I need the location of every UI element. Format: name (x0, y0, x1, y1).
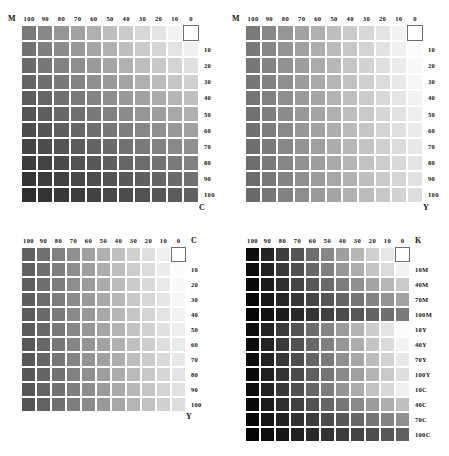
color-patch (320, 397, 335, 412)
patch-grid (245, 247, 410, 442)
patch-row (245, 171, 423, 187)
patch-row (21, 25, 199, 41)
color-patch (66, 382, 81, 397)
color-patch (245, 122, 261, 138)
color-patch (141, 367, 156, 382)
column-axis-tag: M (8, 14, 21, 23)
column-label: 80 (275, 236, 290, 245)
color-patch (37, 90, 53, 106)
color-patch (380, 337, 395, 352)
column-labels: 1009080706050403020100 (245, 236, 410, 245)
color-patch (167, 138, 183, 154)
column-label: 20 (375, 14, 391, 23)
color-patch (260, 382, 275, 397)
color-patch (141, 322, 156, 337)
patch-row (245, 187, 423, 203)
color-patch (21, 74, 37, 90)
color-patch (21, 397, 36, 412)
footer-gutter (232, 203, 418, 213)
color-patch (290, 262, 305, 277)
color-patch (261, 74, 277, 90)
color-patch (86, 122, 102, 138)
color-patch (275, 352, 290, 367)
column-label: 100 (245, 14, 261, 23)
color-patch (395, 412, 410, 427)
color-patch (395, 292, 410, 307)
row-label: 10 (204, 41, 225, 57)
color-patch (245, 367, 260, 382)
column-label: 0 (407, 14, 423, 23)
color-patch (36, 262, 51, 277)
row-label: 10M (415, 262, 436, 277)
color-patch (21, 247, 36, 262)
color-patch (245, 155, 261, 171)
color-patch (111, 382, 126, 397)
color-patch (365, 367, 380, 382)
color-patch (310, 171, 326, 187)
color-patch (391, 25, 407, 41)
patch-row (21, 337, 186, 352)
color-patch (141, 397, 156, 412)
color-patch (310, 74, 326, 90)
patch-row (21, 397, 186, 412)
color-patch (407, 138, 423, 154)
color-patch (261, 90, 277, 106)
color-patch (86, 41, 102, 57)
patch-row (21, 187, 199, 203)
color-patch (326, 187, 342, 203)
color-patch (96, 277, 111, 292)
color-patch (294, 25, 310, 41)
left-gutter (232, 247, 245, 442)
color-patch (277, 171, 293, 187)
color-patch (171, 277, 186, 292)
color-patch (275, 367, 290, 382)
color-patch (86, 57, 102, 73)
color-patch (141, 352, 156, 367)
color-patch (342, 57, 358, 73)
color-patch (81, 352, 96, 367)
patch-row (245, 57, 423, 73)
color-patch (305, 247, 320, 262)
color-patch (342, 138, 358, 154)
row-label: 90 (204, 171, 225, 187)
color-patch (183, 171, 199, 187)
color-patch (380, 247, 395, 262)
patch-row (21, 307, 186, 322)
chart-body: 102030405060708090100 (232, 25, 449, 203)
color-patch (81, 262, 96, 277)
color-patch (36, 382, 51, 397)
color-patch (111, 277, 126, 292)
patch-row (21, 171, 199, 187)
color-patch (141, 307, 156, 322)
color-patch (290, 277, 305, 292)
color-patch (21, 307, 36, 322)
row-label: 40 (191, 307, 212, 322)
color-patch (96, 247, 111, 262)
color-patch (53, 74, 69, 90)
color-patch (395, 322, 410, 337)
row-label: 50 (204, 106, 225, 122)
row-label: 50 (191, 322, 212, 337)
row-label: 90 (428, 171, 449, 187)
color-patch (342, 74, 358, 90)
color-patch (134, 90, 150, 106)
color-patch (86, 138, 102, 154)
color-patch (275, 322, 290, 337)
color-patch (320, 262, 335, 277)
color-patch (326, 171, 342, 187)
color-patch (335, 412, 350, 427)
color-patch (320, 352, 335, 367)
color-patch (290, 337, 305, 352)
color-patch (380, 352, 395, 367)
color-patch (277, 41, 293, 57)
color-patch (167, 122, 183, 138)
color-patch (183, 155, 199, 171)
color-patch (275, 292, 290, 307)
color-patch (53, 57, 69, 73)
patch-row (245, 90, 423, 106)
row-scale-labels: 10M40M70M100M10Y40Y70Y100Y10C40C70C100C (410, 247, 436, 442)
color-patch (51, 322, 66, 337)
color-patch (380, 307, 395, 322)
color-patch (407, 187, 423, 203)
column-scale-header: 1009080706050403020100K (232, 232, 436, 245)
